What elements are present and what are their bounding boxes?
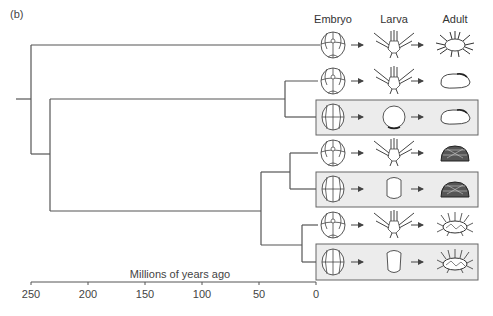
taxon-row-1 (321, 30, 474, 58)
axis-tick-0: 0 (301, 288, 331, 300)
taxon-row-2 (321, 66, 470, 94)
axis-tick-200: 200 (73, 288, 103, 300)
axis-tick-50: 50 (244, 288, 274, 300)
axis-tick-100: 100 (187, 288, 217, 300)
axis-tick-150: 150 (130, 288, 160, 300)
axis-title: Millions of years ago (110, 268, 250, 280)
taxon-row-4 (321, 138, 469, 166)
tree-branches (16, 45, 320, 262)
taxon-row-6 (321, 210, 473, 238)
time-axis (31, 282, 316, 285)
axis-tick-250: 250 (16, 288, 46, 300)
